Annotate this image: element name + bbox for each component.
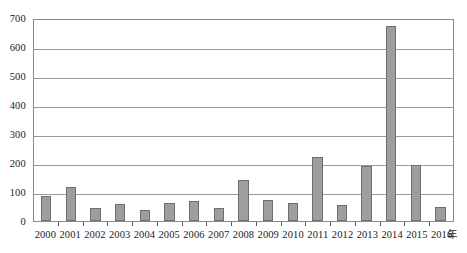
x-axis-tick-label: 2002 — [83, 229, 108, 247]
bar — [435, 207, 445, 221]
x-axis-tick — [107, 222, 108, 226]
bar-slot — [280, 20, 305, 221]
bar-slot — [231, 20, 256, 221]
x-axis-tick — [58, 222, 59, 226]
x-axis-tick-label: 2008 — [231, 229, 256, 247]
bar-slot — [34, 20, 59, 221]
x-axis-ticks — [33, 222, 454, 227]
bars-container — [34, 20, 453, 221]
bar-slot — [206, 20, 231, 221]
bar-slot — [157, 20, 182, 221]
y-axis-tick-label: 700 — [10, 14, 26, 25]
bar-slot — [305, 20, 330, 221]
x-axis-tick-label: 2010 — [281, 229, 306, 247]
x-axis-tick-label: 2006 — [182, 229, 207, 247]
bar — [66, 187, 76, 221]
x-axis-tick-label: 2015 — [404, 229, 429, 247]
x-axis-tick-label: 2009 — [256, 229, 281, 247]
bar-slot — [379, 20, 404, 221]
x-axis-tick-label: 2004 — [132, 229, 157, 247]
x-axis-tick-label: 2001 — [58, 229, 83, 247]
x-axis-tick — [231, 222, 232, 226]
y-axis-labels: 700 600 500 400 300 200 100 0 — [0, 0, 30, 253]
x-axis-tick-label: 2000 — [33, 229, 58, 247]
x-axis-tick-label: 2012 — [330, 229, 355, 247]
bar-slot — [404, 20, 429, 221]
x-axis-tick — [305, 222, 306, 226]
bar — [115, 204, 125, 221]
x-axis-tick-label: 2007 — [206, 229, 231, 247]
bar-slot — [330, 20, 355, 221]
bar — [90, 208, 100, 221]
bar — [386, 26, 396, 221]
x-axis-tick — [182, 222, 183, 226]
y-axis-tick-label: 400 — [10, 101, 26, 112]
x-axis-tick — [380, 222, 381, 226]
bar — [361, 166, 371, 221]
x-axis-tick — [83, 222, 84, 226]
x-axis-tick — [429, 222, 430, 226]
x-axis-tick-label: 2011 — [305, 229, 330, 247]
bar — [288, 203, 298, 221]
bar-slot — [59, 20, 84, 221]
y-axis-tick-label: 600 — [10, 43, 26, 54]
bar-slot — [133, 20, 158, 221]
x-axis-tick-label: 2014 — [380, 229, 405, 247]
bar — [140, 210, 150, 221]
y-axis-tick-label: 200 — [10, 159, 26, 170]
x-axis-unit-label: 年 — [447, 229, 457, 242]
bar-chart: 700 600 500 400 300 200 100 0 2000200120… — [0, 0, 467, 253]
y-axis-tick-label: 100 — [10, 188, 26, 199]
bar-slot — [108, 20, 133, 221]
x-axis-tick — [404, 222, 405, 226]
bar-slot — [428, 20, 453, 221]
bar-slot — [354, 20, 379, 221]
bar-slot — [182, 20, 207, 221]
bar — [411, 165, 421, 221]
x-axis-tick-label: 2013 — [355, 229, 380, 247]
x-axis-tick — [256, 222, 257, 226]
bar-slot — [256, 20, 281, 221]
bar — [164, 203, 174, 221]
bar — [189, 201, 199, 221]
bar — [214, 208, 224, 221]
x-axis-tick — [132, 222, 133, 226]
y-axis-tick-label: 500 — [10, 72, 26, 83]
x-axis-tick — [281, 222, 282, 226]
y-axis-tick-label: 0 — [21, 217, 26, 228]
x-axis-tick — [355, 222, 356, 226]
bar — [337, 205, 347, 221]
y-axis-tick-label: 300 — [10, 130, 26, 141]
bar — [238, 180, 248, 221]
plot-area — [33, 19, 454, 222]
x-axis-tick-label: 2005 — [157, 229, 182, 247]
bar — [41, 196, 51, 221]
bar — [263, 200, 273, 221]
bar — [312, 157, 322, 221]
x-axis-tick — [330, 222, 331, 226]
bar-slot — [83, 20, 108, 221]
x-axis-labels: 2000200120022003200420052006200720082009… — [33, 229, 454, 247]
x-axis-tick-label: 2003 — [107, 229, 132, 247]
x-axis-tick — [157, 222, 158, 226]
x-axis-tick — [206, 222, 207, 226]
